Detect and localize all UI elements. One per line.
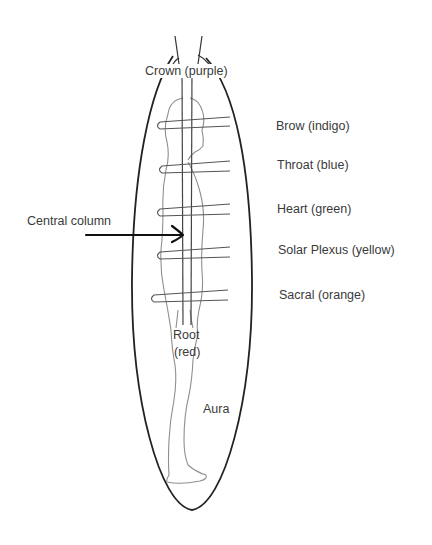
chakra-bar-throat	[160, 161, 231, 173]
label-aura: Aura	[203, 402, 229, 416]
chakra-bar-heart	[158, 204, 231, 216]
chakra-diagram: Crown (purple) Brow (indigo) Throat (blu…	[0, 0, 432, 545]
chakra-bar-solar-plexus	[158, 247, 231, 259]
central-column	[182, 65, 192, 325]
label-central-column: Central column	[27, 214, 111, 228]
central-channel-top	[172, 36, 209, 66]
label-crown: Crown (purple)	[144, 64, 229, 78]
body-figure	[161, 98, 207, 483]
label-throat: Throat (blue)	[277, 158, 349, 172]
label-root: Root	[173, 328, 199, 342]
label-heart: Heart (green)	[277, 202, 351, 216]
label-solar-plexus: Solar Plexus (yellow)	[278, 243, 395, 257]
chakra-bar-sacral	[152, 290, 229, 302]
label-root-color: (red)	[174, 345, 200, 359]
chakra-bar-brow	[158, 117, 231, 129]
label-brow: Brow (indigo)	[276, 119, 350, 133]
label-sacral: Sacral (orange)	[279, 288, 365, 302]
diagram-canvas	[0, 0, 432, 545]
